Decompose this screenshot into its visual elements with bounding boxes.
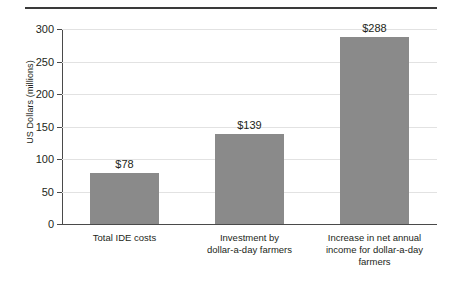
category-label-line: farmers (310, 256, 440, 268)
tick-mark (57, 127, 62, 128)
y-tick-label: 150 (36, 121, 54, 133)
tick-mark (57, 29, 62, 30)
category-label: Total IDE costs (60, 232, 190, 244)
bar[interactable] (340, 37, 409, 224)
bar-value-label: $78 (85, 158, 165, 170)
category-label-line: income for dollar-a-day (310, 244, 440, 256)
category-label-line: dollar-a-day farmers (185, 244, 315, 256)
tick-mark (57, 192, 62, 193)
tick-mark (57, 62, 62, 63)
tick-mark (57, 159, 62, 160)
y-tick-label: 0 (48, 218, 54, 230)
bar-value-label: $288 (335, 22, 415, 34)
bar-chart-figure: US Dollars (millions) 050100150200250300… (0, 0, 452, 289)
y-tick-label: 250 (36, 56, 54, 68)
category-label-line: Investment by (185, 232, 315, 244)
plot-area: 050100150200250300 $78$139$288 (62, 29, 437, 224)
bar[interactable] (215, 134, 284, 224)
y-axis-title: US Dollars (millions) (25, 2, 35, 202)
x-axis-line (62, 224, 437, 225)
category-label: Increase in net annualincome for dollar-… (310, 232, 440, 268)
tick-mark (57, 224, 62, 225)
y-tick-label: 200 (36, 88, 54, 100)
category-label: Investment bydollar-a-day farmers (185, 232, 315, 256)
category-label-line: Total IDE costs (60, 232, 190, 244)
category-label-line: Increase in net annual (310, 232, 440, 244)
y-tick-label: 50 (42, 186, 54, 198)
y-tick-label: 100 (36, 153, 54, 165)
bar[interactable] (90, 173, 159, 224)
tick-mark (57, 94, 62, 95)
bar-value-label: $139 (210, 119, 290, 131)
top-rule-divider (25, 7, 437, 9)
y-tick-label: 300 (36, 23, 54, 35)
